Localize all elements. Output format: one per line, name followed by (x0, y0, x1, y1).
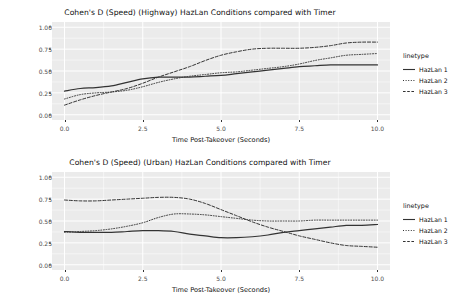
x-tick-mark (221, 270, 222, 272)
y-axis-urban: 0.000.250.500.751.00 (20, 172, 52, 270)
x-tick-label: 10.0 (362, 275, 392, 282)
x-tick-mark (377, 120, 378, 122)
legend-label-hazlan-3: HazLan 3 (416, 238, 448, 245)
legend-label-hazlan-2: HazLan 2 (416, 227, 448, 234)
y-tick-mark (49, 177, 51, 178)
legend-highway: linetype HazLan 1 HazLan 2 HazLan 3 (402, 52, 468, 97)
x-axis-title-highway: Time Post-Takeover (Seconds) (52, 136, 390, 144)
y-tick-mark (49, 114, 51, 115)
legend-key-dotted-icon (402, 225, 416, 236)
legend-urban: linetype HazLan 1 HazLan 2 HazLan 3 (402, 202, 468, 247)
y-tick-mark (49, 242, 51, 243)
plot-lines-highway (52, 22, 390, 120)
legend-key-solid-icon (402, 214, 416, 225)
legend-label-hazlan-3: HazLan 3 (416, 88, 448, 95)
x-tick-label: 5.0 (206, 275, 236, 282)
legend-label-hazlan-1: HazLan 1 (416, 216, 448, 223)
y-tick-mark (49, 71, 51, 72)
chart-figure-urban: Cohen's D (Speed) (Urban) HazLan Conditi… (0, 150, 469, 300)
x-axis-title-urban: Time Post-Takeover (Seconds) (52, 286, 390, 294)
x-tick-label: 2.5 (128, 125, 158, 132)
legend-key-dashed-icon (402, 236, 416, 247)
x-tick-mark (299, 120, 300, 122)
x-tick-label: 0.0 (50, 125, 80, 132)
x-tick-mark (143, 120, 144, 122)
legend-key-dotted-icon (402, 75, 416, 86)
x-tick-mark (65, 270, 66, 272)
chart-title-urban: Cohen's D (Speed) (Urban) HazLan Conditi… (0, 158, 400, 168)
x-tick-mark (221, 120, 222, 122)
y-tick-mark (49, 92, 51, 93)
legend-item-hazlan-2[interactable]: HazLan 2 (402, 225, 468, 236)
plot-panel-urban (52, 172, 390, 270)
y-axis-highway: 0.000.250.500.751.00 (20, 22, 52, 120)
legend-item-hazlan-3[interactable]: HazLan 3 (402, 236, 468, 247)
legend-key-solid-icon (402, 64, 416, 75)
x-tick-label: 2.5 (128, 275, 158, 282)
legend-item-hazlan-1[interactable]: HazLan 1 (402, 64, 468, 75)
legend-item-hazlan-2[interactable]: HazLan 2 (402, 75, 468, 86)
y-tick-mark (49, 199, 51, 200)
chart-title-highway: Cohen's D (Speed) (Highway) HazLan Condi… (0, 8, 400, 18)
legend-item-hazlan-1[interactable]: HazLan 1 (402, 214, 468, 225)
x-tick-label: 7.5 (284, 125, 314, 132)
legend-label-hazlan-1: HazLan 1 (416, 66, 448, 73)
legend-item-hazlan-3[interactable]: HazLan 3 (402, 86, 468, 97)
legend-title: linetype (402, 52, 468, 60)
x-tick-label: 0.0 (50, 275, 80, 282)
x-tick-mark (65, 120, 66, 122)
x-axis-highway: 0.02.55.07.510.0 (52, 120, 390, 134)
chart-stack: Cohen's D (Speed) (Highway) HazLan Condi… (0, 0, 469, 300)
x-axis-urban: 0.02.55.07.510.0 (52, 270, 390, 284)
y-tick-mark (49, 264, 51, 265)
legend-title: linetype (402, 202, 468, 210)
y-tick-mark (49, 221, 51, 222)
x-tick-label: 5.0 (206, 125, 236, 132)
legend-label-hazlan-2: HazLan 2 (416, 77, 448, 84)
x-tick-mark (299, 270, 300, 272)
y-tick-mark (49, 27, 51, 28)
y-tick-mark (49, 49, 51, 50)
x-tick-label: 7.5 (284, 275, 314, 282)
chart-figure-highway: Cohen's D (Speed) (Highway) HazLan Condi… (0, 0, 469, 150)
plot-lines-urban (52, 172, 390, 270)
plot-panel-highway (52, 22, 390, 120)
x-tick-mark (143, 270, 144, 272)
x-tick-mark (377, 270, 378, 272)
legend-key-dashed-icon (402, 86, 416, 97)
x-tick-label: 10.0 (362, 125, 392, 132)
